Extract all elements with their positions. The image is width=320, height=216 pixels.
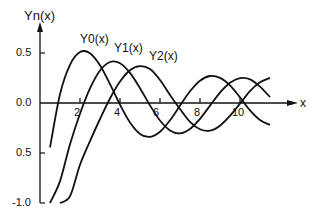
- xtick-4: 4: [114, 107, 120, 118]
- xtick-6: 6: [153, 107, 159, 118]
- ytick-0-0: 0.0: [16, 97, 31, 108]
- y-axis-arrow-icon: [37, 22, 43, 32]
- x-axis-label: x: [300, 97, 306, 109]
- curve-label-y2: Y2(x): [149, 50, 178, 62]
- xtick-8: 8: [194, 107, 200, 118]
- curve-label-y0: Y0(x): [80, 33, 109, 45]
- y-axis-label: Yn(x): [24, 9, 55, 22]
- x-axis-arrow-icon: [287, 100, 298, 106]
- ytick-0-5: 0.5: [16, 47, 31, 58]
- bessel-chart: Yn(x) x Y0(x) Y1(x) Y2(x) 0.5 0.0 0.5 -1…: [0, 0, 320, 216]
- plot-area: [0, 0, 320, 216]
- xtick-10: 10: [232, 107, 244, 118]
- curve-label-y1: Y1(x): [114, 42, 143, 54]
- ytick-neg-1-0: -1.0: [12, 197, 31, 208]
- ytick-neg-0-5: 0.5: [16, 147, 31, 158]
- xtick-2: 2: [74, 107, 80, 118]
